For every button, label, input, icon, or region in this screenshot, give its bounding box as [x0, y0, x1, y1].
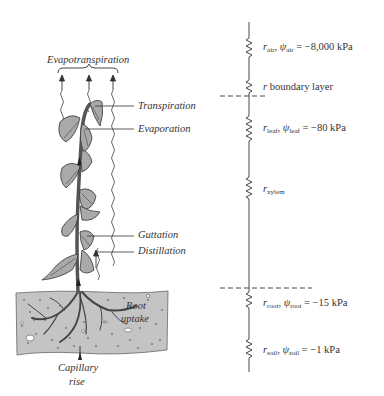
label-root-resistance: rroot, ψroot = −15 kPa: [263, 298, 347, 310]
label-capillary-2: rise: [69, 377, 85, 388]
root-potential-value: = −15 kPa: [304, 297, 347, 308]
resistor-soil: [246, 339, 252, 358]
label-leaders: [85, 106, 134, 252]
resistor-boundary: [246, 80, 252, 93]
label-guttation: Guttation: [138, 230, 178, 241]
label-capillary-1: Capillary: [58, 363, 98, 374]
label-distillation: Distillation: [138, 246, 186, 257]
resistor-root: [246, 292, 252, 308]
label-boundary-layer: r boundary layer: [263, 82, 333, 93]
soil-potential-value: = −1 kPa: [302, 344, 340, 355]
label-evapotranspiration: Evapotranspiration: [47, 55, 129, 66]
distillation-arrow: [94, 250, 99, 268]
leaf-potential-value: = −80 kPa: [303, 122, 346, 133]
label-leaf-resistance: rleaf, ψleaf = −80 kPa: [263, 123, 346, 135]
label-air-resistance: rair, ψair = −8,000 kPa: [263, 42, 353, 54]
resistor-leaf: [246, 116, 252, 141]
label-xylem-resistance: rxylem: [263, 184, 285, 196]
label-root-uptake-1: Root: [126, 301, 146, 312]
air-potential-value: = −8,000 kPa: [296, 41, 352, 52]
label-soil-resistance: rsoil, ψsoil = −1 kPa: [263, 345, 340, 357]
label-evaporation: Evaporation: [138, 124, 191, 135]
resistor-xylem: [246, 177, 252, 199]
resistance-circuit: [246, 22, 252, 372]
leaves: [42, 100, 103, 280]
vapor-arrows: [60, 75, 116, 90]
label-root-uptake-2: uptake: [121, 314, 149, 325]
resistor-air: [246, 38, 252, 57]
label-transpiration: Transpiration: [138, 101, 196, 112]
